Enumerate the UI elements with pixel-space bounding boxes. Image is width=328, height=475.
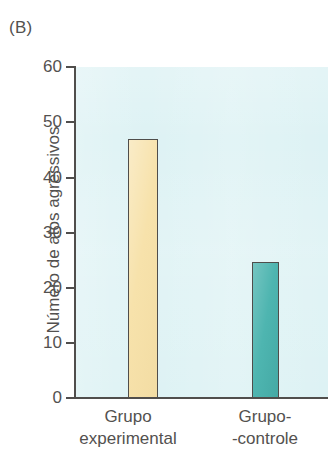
y-tick-label-60: 60 <box>2 58 62 75</box>
y-tick-mark-20 <box>66 287 75 289</box>
y-tick-mark-10 <box>66 342 75 344</box>
y-tick-label-20: 20 <box>2 279 62 296</box>
x-category-label-1-line2: -controle <box>206 428 324 450</box>
y-tick-label-0: 0 <box>2 389 62 406</box>
x-category-label-0-line1: Grupo <box>64 406 192 428</box>
y-tick-mark-60 <box>66 66 75 68</box>
y-tick-label-10: 10 <box>2 334 62 351</box>
x-category-label-0: Grupo experimental <box>64 406 192 450</box>
y-tick-label-40: 40 <box>2 169 62 186</box>
y-tick-mark-30 <box>66 232 75 234</box>
bar-grupo-controle <box>252 262 279 398</box>
x-category-label-1-line1: Grupo- <box>206 406 324 428</box>
figure-panel-b: (B) Número de atos agressivos 0 10 20 30… <box>0 0 328 475</box>
y-tick-mark-40 <box>66 177 75 179</box>
bar-grupo-experimental <box>128 139 158 398</box>
x-category-label-0-line2: experimental <box>64 428 192 450</box>
y-tick-label-30: 30 <box>2 224 62 241</box>
x-category-label-1: Grupo- -controle <box>206 406 324 450</box>
plot-background-texture <box>75 67 328 398</box>
x-axis-line <box>74 397 328 399</box>
y-tick-mark-50 <box>66 121 75 123</box>
y-tick-mark-0 <box>66 397 75 399</box>
plot-area <box>75 67 328 398</box>
y-tick-label-50: 50 <box>2 113 62 130</box>
panel-label: (B) <box>9 18 33 38</box>
